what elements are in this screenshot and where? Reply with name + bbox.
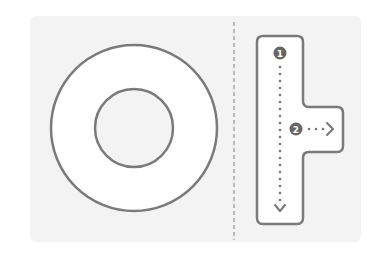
diagram-canvas: 1 2	[0, 0, 383, 255]
step-badge-2: 2	[290, 123, 303, 136]
inner-circle	[95, 89, 173, 167]
t-shape-figure: 1 2	[257, 36, 343, 224]
step-badge-1: 1	[274, 47, 287, 60]
ring-figure	[51, 45, 217, 211]
badge-1-label: 1	[277, 49, 283, 59]
badge-2-label: 2	[293, 125, 299, 135]
